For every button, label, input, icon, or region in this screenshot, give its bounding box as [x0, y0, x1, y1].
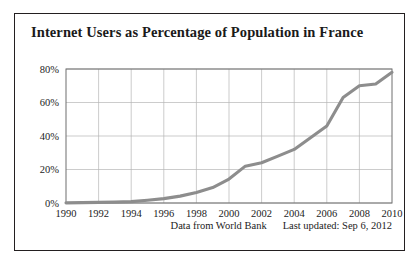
x-tick-label: 1998: [186, 208, 207, 219]
line-chart-svg: 0%20%40%60%80% 1990199219941996199820002…: [15, 14, 406, 252]
y-axis-tick-labels: 0%20%40%60%80%: [40, 64, 60, 209]
x-tick-label: 2010: [382, 208, 403, 219]
y-tick-label: 80%: [40, 64, 60, 75]
last-updated-note: Last updated: Sep 6, 2012: [283, 220, 392, 231]
x-tick-label: 1996: [153, 208, 174, 219]
y-tick-label: 20%: [40, 164, 60, 175]
chart-figure: Internet Users as Percentage of Populati…: [14, 13, 405, 251]
x-tick-label: 1992: [88, 208, 109, 219]
y-tick-label: 60%: [40, 97, 60, 108]
x-tick-label: 2000: [219, 208, 240, 219]
x-tick-label: 2002: [251, 208, 272, 219]
y-tick-label: 40%: [40, 131, 60, 142]
x-tick-label: 1990: [56, 208, 77, 219]
y-tick-label: 0%: [45, 198, 59, 209]
chart-footer: Data from World BankLast updated: Sep 6,…: [15, 220, 406, 231]
x-tick-label: 2006: [316, 208, 337, 219]
data-source-note: Data from World Bank: [171, 220, 267, 231]
x-tick-label: 1994: [121, 208, 143, 219]
plot-area: 0%20%40%60%80% 1990199219941996199820002…: [15, 14, 406, 252]
x-axis-tick-labels: 1990199219941996199820002002200420062008…: [56, 208, 403, 219]
gridlines: [66, 69, 392, 203]
x-tick-label: 2004: [284, 208, 306, 219]
x-tick-label: 2008: [349, 208, 370, 219]
